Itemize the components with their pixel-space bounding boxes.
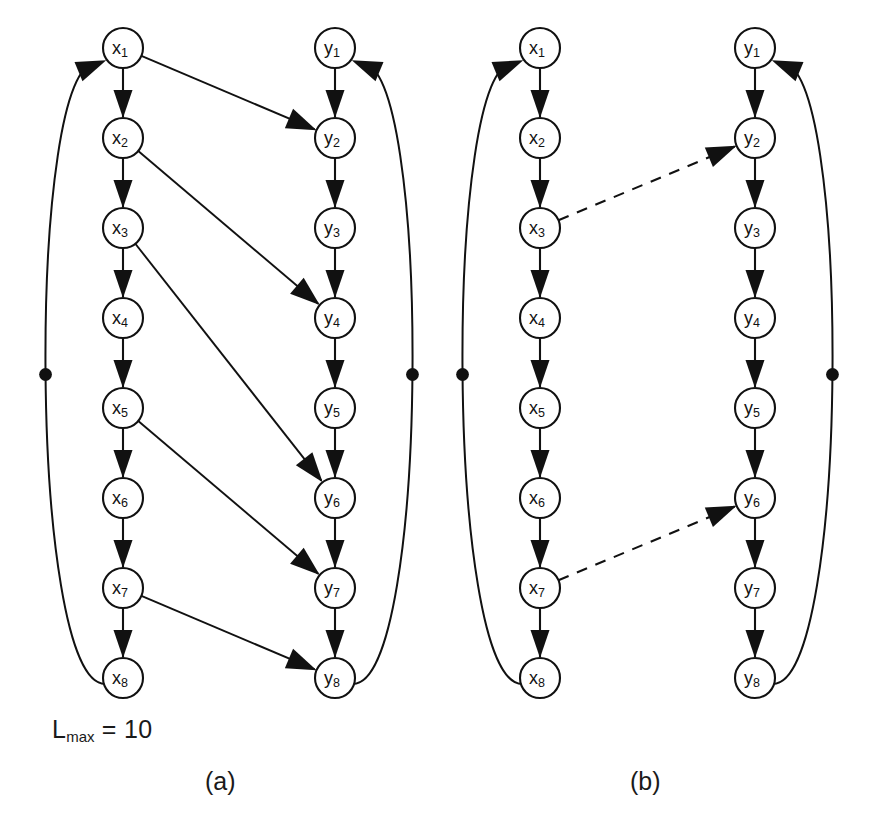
panel-b-node-y8[interactable]: y8: [735, 658, 775, 698]
panel-a-node-x6-circle[interactable]: [103, 478, 143, 518]
panel-a-cross-edge-x7-to-y8-arrowhead: [285, 649, 317, 670]
panel-a-node-x4-circle[interactable]: [103, 298, 143, 338]
panel-a-cross-edge-x5-to-y7-arrowhead: [290, 548, 320, 575]
panel-b-feedback-y8-to-y1-path: [773, 64, 833, 684]
panel-b-edge-y7-to-y8: [746, 608, 765, 658]
diagram-canvas: x1x2x3x4x5x6x7x8y1y2y3y4y5y6y7y8 x1x2x3x…: [0, 0, 870, 821]
panel-a-edge-x5-to-x6: [114, 428, 133, 478]
panel-a-cross-edge-x5-to-y7-line: [138, 421, 318, 574]
panel-a-node-x7-circle[interactable]: [103, 568, 143, 608]
panel-a-node-y7-circle[interactable]: [315, 568, 355, 608]
panel-a-edge-x4-to-x5: [114, 338, 133, 388]
panel-a-node-y8-circle[interactable]: [315, 658, 355, 698]
panel-b-cross-edge-x7-to-y6-line: [558, 506, 734, 580]
panel-b-node-x8[interactable]: x8: [520, 658, 560, 698]
panel-a-node-x6[interactable]: x6: [103, 478, 143, 518]
panel-a-node-y7[interactable]: y7: [315, 568, 355, 608]
panel-b-node-x6-circle[interactable]: [520, 478, 560, 518]
panel-a-node-y4-circle[interactable]: [315, 298, 355, 338]
panel-a-node-y2-circle[interactable]: [315, 118, 355, 158]
panel-a-node-x5-circle[interactable]: [103, 388, 143, 428]
panel-a-edge-x1-to-x2-arrowhead: [114, 90, 133, 118]
panel-a-node-x4[interactable]: x4: [103, 298, 143, 338]
panel-b-edge-x4-to-x5-arrowhead: [531, 360, 550, 388]
panel-a-edge-x7-to-x8-arrowhead: [114, 630, 133, 658]
panel-b-node-y4-circle[interactable]: [735, 298, 775, 338]
panel-b-node-y8-circle[interactable]: [735, 658, 775, 698]
panel-b-node-x3-circle[interactable]: [520, 208, 560, 248]
panel-a-node-x1[interactable]: x1: [103, 28, 143, 68]
panel-b-node-y1[interactable]: y1: [735, 28, 775, 68]
panel-a-node-x2[interactable]: x2: [103, 118, 143, 158]
panel-a-feedback-x8-to-x1-junction-dot: [39, 368, 52, 381]
panel-a-node-y1-circle[interactable]: [315, 28, 355, 68]
panel-b-node-x4-circle[interactable]: [520, 298, 560, 338]
panel-a-cross-edge-x1-to-y2-arrowhead: [285, 109, 317, 130]
panel-a-node-y8[interactable]: y8: [315, 658, 355, 698]
panel-b-edge-y6-to-y7-arrowhead: [746, 540, 765, 568]
panel-b-node-y6-circle[interactable]: [735, 478, 775, 518]
panel-b-edge-x2-to-x3-arrowhead: [531, 180, 550, 208]
panel-a-node-y6-circle[interactable]: [315, 478, 355, 518]
panel-b-node-x4[interactable]: x4: [520, 298, 560, 338]
panel-b-node-x1-circle[interactable]: [520, 28, 560, 68]
panel-b-edge-y2-to-y3-arrowhead: [746, 180, 765, 208]
panel-b-node-y5[interactable]: y5: [735, 388, 775, 428]
panel-b-node-x3[interactable]: x3: [520, 208, 560, 248]
panel-b-edge-x3-to-x4: [531, 248, 550, 298]
panel-b-node-x7-circle[interactable]: [520, 568, 560, 608]
panel-a-edge-x4-to-x5-arrowhead: [114, 360, 133, 388]
panel-a-feedback-x8-to-x1-path: [45, 64, 105, 684]
panel-b-node-y7-circle[interactable]: [735, 568, 775, 608]
panel-caption-b: (b): [630, 767, 661, 796]
panel-a-cross-edge-x1-to-y2-line: [141, 56, 314, 130]
panel-a-node-x5[interactable]: x5: [103, 388, 143, 428]
panel-b-node-x6[interactable]: x6: [520, 478, 560, 518]
panel-a-node-x8-circle[interactable]: [103, 658, 143, 698]
panel-b-node-x5-circle[interactable]: [520, 388, 560, 428]
panel-b-node-x8-circle[interactable]: [520, 658, 560, 698]
panel-b-feedback-x8-to-x1-path: [462, 64, 522, 684]
panel-b-node-y2[interactable]: y2: [735, 118, 775, 158]
panel-a-node-x8[interactable]: x8: [103, 658, 143, 698]
panel-a-edge-x1-to-x2: [114, 68, 133, 118]
panel-b-edge-y3-to-y4-arrowhead: [746, 270, 765, 298]
panel-b-node-y5-circle[interactable]: [735, 388, 775, 428]
panel-b-node-y2-circle[interactable]: [735, 118, 775, 158]
panel-a-cross-edge-x3-to-y6-arrowhead: [296, 452, 323, 482]
panel-a-node-x3-circle[interactable]: [103, 208, 143, 248]
panel-a-node-x2-circle[interactable]: [103, 118, 143, 158]
panel-a-edge-y4-to-y5: [326, 338, 345, 388]
panel-b-node-x7[interactable]: x7: [520, 568, 560, 608]
panel-b-node-y3-circle[interactable]: [735, 208, 775, 248]
panel-a-node-y3[interactable]: y3: [315, 208, 355, 248]
panel-a-node-x1-circle[interactable]: [103, 28, 143, 68]
panel-b-cross-edge-x3-to-y2: [558, 146, 736, 221]
panel-a-node-y3-circle[interactable]: [315, 208, 355, 248]
panel-b-node-x5[interactable]: x5: [520, 388, 560, 428]
panel-a-node-x7[interactable]: x7: [103, 568, 143, 608]
panel-a-node-y4[interactable]: y4: [315, 298, 355, 338]
panel-a-cross-edge-x2-to-y4-arrowhead: [290, 278, 320, 305]
panel-a-node-y5[interactable]: y5: [315, 388, 355, 428]
panel-a-node-y5-circle[interactable]: [315, 388, 355, 428]
panel-b-node-x2-circle[interactable]: [520, 118, 560, 158]
panel-a-node-y1[interactable]: y1: [315, 28, 355, 68]
panel-b-node-y4[interactable]: y4: [735, 298, 775, 338]
panel-b-edge-x1-to-x2: [531, 68, 550, 118]
panel-b-edge-y3-to-y4: [746, 248, 765, 298]
panel-a-edge-x6-to-x7-arrowhead: [114, 540, 133, 568]
panel-a-node-y2[interactable]: y2: [315, 118, 355, 158]
panel-b-node-x1[interactable]: x1: [520, 28, 560, 68]
panel-b-node-y3[interactable]: y3: [735, 208, 775, 248]
lmax-subscript: max: [66, 728, 94, 745]
lmax-equals: =: [95, 715, 124, 743]
panel-b-edge-x6-to-x7: [531, 518, 550, 568]
panel-a-node-x3[interactable]: x3: [103, 208, 143, 248]
panel-b-node-y6[interactable]: y6: [735, 478, 775, 518]
panel-b-node-x2[interactable]: x2: [520, 118, 560, 158]
panel-b-node-y7[interactable]: y7: [735, 568, 775, 608]
panel-a-edge-x3-to-x4-arrowhead: [114, 270, 133, 298]
panel-a-node-y6[interactable]: y6: [315, 478, 355, 518]
panel-b-node-y1-circle[interactable]: [735, 28, 775, 68]
